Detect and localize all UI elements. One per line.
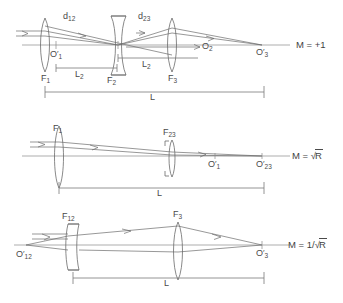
panel-2-ray-a (59, 142, 172, 152)
panel-3-label-o12: O′12 (16, 250, 32, 259)
lens-f1-panel2 (55, 126, 64, 188)
panel-2-optics (22, 126, 290, 194)
panel-2-label-o1: O′1 (208, 160, 220, 169)
panel-3-label-f12: F12 (62, 212, 75, 221)
panel-1-ray-g (172, 28, 262, 45)
optical-ray-diagram-figure: .ray { stroke:#6b6b6b; stroke-width:0.7;… (0, 0, 343, 303)
panel-2-label-f23: F23 (163, 128, 176, 137)
panel-3-ray-d (178, 245, 262, 252)
panel-1-magnification: M = +1 (296, 40, 326, 50)
panel-2-label-f1: F1 (53, 124, 62, 133)
panel-3-optics (14, 222, 290, 284)
panel-1-ray-h (172, 33, 262, 45)
panel-3-ray-a (68, 226, 178, 236)
panel-3-ray-c (178, 226, 262, 245)
panel-1-label-d12: d12 (63, 12, 75, 21)
panel-3-label-o3: O′3 (256, 249, 268, 258)
panel-1-ray-e (118, 33, 172, 45)
panel-3-label-l: L (164, 279, 169, 288)
panel-3-ray-virtual-a (26, 236, 68, 245)
panel-1-bracket-l2-first (56, 64, 117, 72)
panel-1-label-f1: F1 (41, 74, 50, 83)
panel-2-label-o23: O′23 (256, 160, 272, 169)
panel-1-label-o2: O2 (202, 42, 213, 51)
panel-1-label-l2-first: L2 (75, 70, 84, 79)
lens-f3-panel3 (174, 222, 183, 280)
panel-1-label-f3: F3 (168, 74, 177, 83)
panel-1-label-d23: d23 (138, 12, 150, 21)
panel-1-ray-d (118, 28, 172, 45)
panel-3-label-f3: F3 (173, 210, 182, 219)
panel-1-label-f2: F2 (107, 76, 116, 85)
panel-1-label-o1: O′1 (50, 50, 62, 59)
panel-2-magnification: M = √R (292, 151, 323, 161)
panel-1-bracket-l2-second (118, 54, 198, 62)
panel-3-ray-virtual-b (26, 245, 68, 250)
panel-2-ray-b (59, 147, 172, 155)
panel-3-ray-b (79, 250, 178, 252)
lens-f2 (111, 16, 126, 75)
lens-f23 (165, 140, 175, 177)
panel-3-magnification: M = 1/√R (288, 240, 327, 250)
panel-1-label-l2-second: L2 (142, 60, 151, 69)
panel-1-label-o3: O′3 (256, 48, 268, 57)
panel-2-label-l: L (157, 189, 162, 198)
panel-1-label-l: L (150, 93, 155, 102)
lens-f12 (66, 224, 79, 270)
